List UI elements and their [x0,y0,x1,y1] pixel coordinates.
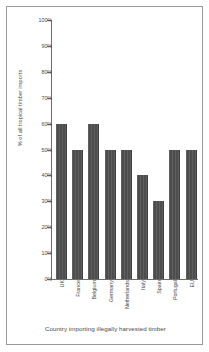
x-axis-tick-label: France [75,280,81,324]
bar [72,150,83,280]
bar [153,201,164,279]
y-axis-tick: 10% [7,253,52,254]
y-axis-tick-label: 20% [12,224,52,230]
x-axis-tick-label: Netherlands [124,280,130,324]
bar [169,150,180,280]
x-axis-tick-label: Belgium [91,280,97,324]
x-axis-tick-label-slot: Netherlands [121,281,132,325]
x-axis-tick-label-slot: Belgium [88,281,99,325]
bar-slot [169,20,180,279]
y-axis-tick: 60% [7,124,52,125]
bar-slot [88,20,99,279]
bar-slot [56,20,67,279]
y-axis-title: % of all tropical timber imports [17,48,23,168]
bar [186,150,197,280]
bar [137,175,148,279]
y-axis-tick: 90% [7,46,52,47]
x-axis-tick-label-slot: Germany [105,281,116,325]
y-axis-tick-label: 10% [12,250,52,256]
x-axis-tick-label: Portugal [172,280,178,324]
y-axis-tick: 30% [7,201,52,202]
bar [88,124,99,279]
y-axis-tick: 80% [7,72,52,73]
bar-series [52,20,198,279]
y-axis-tick-label: 30% [12,198,52,204]
bar-slot [121,20,132,279]
bar-slot [72,20,83,279]
x-axis-tick-label: EU [189,280,195,324]
y-axis-tick: 0% [7,279,52,280]
x-axis-tick-label-slot: Spain [153,281,164,325]
x-axis-tick-label-slot: UK [56,281,67,325]
y-axis-tick-label: 40% [12,172,52,178]
y-axis-tick: 70% [7,98,52,99]
bar [56,124,67,279]
chart-plot-area: 100%90%80%70%60%50%40%30%20%10%0% % of a… [7,7,202,344]
bar-slot [153,20,164,279]
x-axis-tick-label-slot: France [72,281,83,325]
bar [105,150,116,280]
y-axis-tick: 20% [7,227,52,228]
x-axis-tick-labels: UKFranceBelgiumGermanyNetherlandsItalySp… [52,281,198,326]
x-axis-tick-label-slot: EU [186,281,197,325]
y-axis-tick: 100% [7,20,52,21]
x-axis-tick-label: Spain [156,280,162,324]
bar-slot [137,20,148,279]
chart-figure-frame: 100%90%80%70%60%50%40%30%20%10%0% % of a… [6,6,203,345]
x-axis-tick-label: UK [59,280,65,324]
x-axis-tick-label-slot: Italy [137,281,148,325]
y-axis-tick: 50% [7,150,52,151]
x-axis-tick-label: Germany [108,280,114,324]
y-axis-tick-label: 100% [12,17,52,23]
x-axis-tick-label-slot: Portugal [169,281,180,325]
x-axis-tick-label: Italy [140,280,146,324]
bar [121,150,132,280]
y-axis-tick-label: 0% [12,276,52,282]
x-axis-title: Country importing illegally harvested ti… [7,325,204,332]
bar-slot [186,20,197,279]
bar-slot [105,20,116,279]
y-axis-tick: 40% [7,175,52,176]
